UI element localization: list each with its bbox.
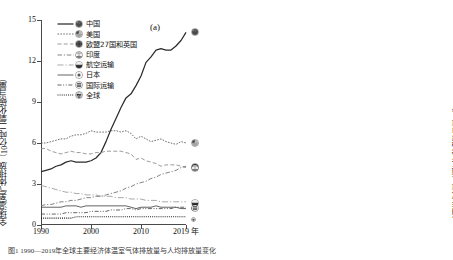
x-tick-label: 2000 <box>83 228 99 236</box>
legend-line-sample <box>57 50 74 60</box>
series-line <box>41 131 186 145</box>
legend-item-label: 中国 <box>86 20 100 27</box>
global-badge-icon <box>75 91 83 99</box>
legend-item-2[interactable]: 美国 <box>57 29 137 39</box>
series-line <box>41 166 186 206</box>
series-line <box>41 148 186 167</box>
shipping-badge-endpoint-icon <box>191 204 199 212</box>
legend: 中国 美国 欧盟27国和英国 印度 航空运输 日本 <box>57 19 137 101</box>
aviation-badge-icon <box>75 61 83 69</box>
x-tick-label: 2019 年 <box>173 228 199 236</box>
y-tick-label: 3 <box>32 180 36 188</box>
legend-line-sample <box>57 60 74 70</box>
japan-badge-icon <box>75 71 83 79</box>
x-tick-label: 2010 <box>133 228 149 236</box>
legend-item-label: 国际运输 <box>86 82 114 89</box>
legend-item-label: 美国 <box>86 31 100 38</box>
figure-caption: 图1 1990—2019年全球主要经济体温室气体排放量与人均排放量变化 <box>8 247 448 256</box>
legend-item-1[interactable]: 中国 <box>57 19 137 29</box>
legend-item-label: 印度 <box>86 51 100 58</box>
legend-line-sample <box>57 70 74 80</box>
legend-line-sample <box>57 39 74 49</box>
panel-b: 人均排放量（吨二氧化碳当量/人） (b) 0510152025199020002… <box>226 0 453 240</box>
y-tick-label: 9 <box>32 98 36 106</box>
y-tick-label: 6 <box>32 139 36 147</box>
series-line <box>41 217 186 218</box>
x-tick-label: 1990 <box>33 228 49 236</box>
figure-container: 全球温室气体排放（10亿吨二氧化碳当量） (a) 036912151990200… <box>0 0 453 260</box>
shipping-badge-icon <box>75 81 83 89</box>
series-line <box>41 185 186 201</box>
legend-line-sample <box>57 29 74 39</box>
legend-item-6[interactable]: 日本 <box>57 70 137 80</box>
legend-item-label: 日本 <box>86 71 100 78</box>
india-badge-endpoint-icon <box>191 164 199 172</box>
legend-line-sample <box>57 90 74 100</box>
legend-item-label: 航空运输 <box>86 61 114 68</box>
series-line <box>41 206 186 209</box>
china-badge-icon <box>75 20 83 28</box>
india-badge-icon <box>75 51 83 59</box>
legend-item-7[interactable]: 国际运输 <box>57 80 137 90</box>
legend-line-sample <box>57 80 74 90</box>
series-line <box>41 207 186 214</box>
legend-item-label: 全球 <box>86 92 100 99</box>
legend-line-sample <box>57 19 74 29</box>
panel-a-y-axis-label: 全球温室气体排放（10亿吨二氧化碳当量） <box>1 14 9 226</box>
legend-item-5[interactable]: 航空运输 <box>57 60 137 70</box>
y-tick-label: 12 <box>28 57 36 65</box>
legend-item-8[interactable]: 全球 <box>57 90 137 100</box>
usa-badge-endpoint-icon <box>191 139 199 147</box>
legend-item-4[interactable]: 印度 <box>57 50 137 60</box>
legend-item-label: 欧盟27国和英国 <box>86 41 137 48</box>
china-badge-endpoint-icon <box>191 28 199 36</box>
y-tick-label: 15 <box>28 16 36 24</box>
usa-badge-icon <box>75 30 83 38</box>
legend-item-3[interactable]: 欧盟27国和英国 <box>57 39 137 49</box>
eu-badge-icon <box>75 40 83 48</box>
global-badge-endpoint-icon <box>191 217 196 222</box>
